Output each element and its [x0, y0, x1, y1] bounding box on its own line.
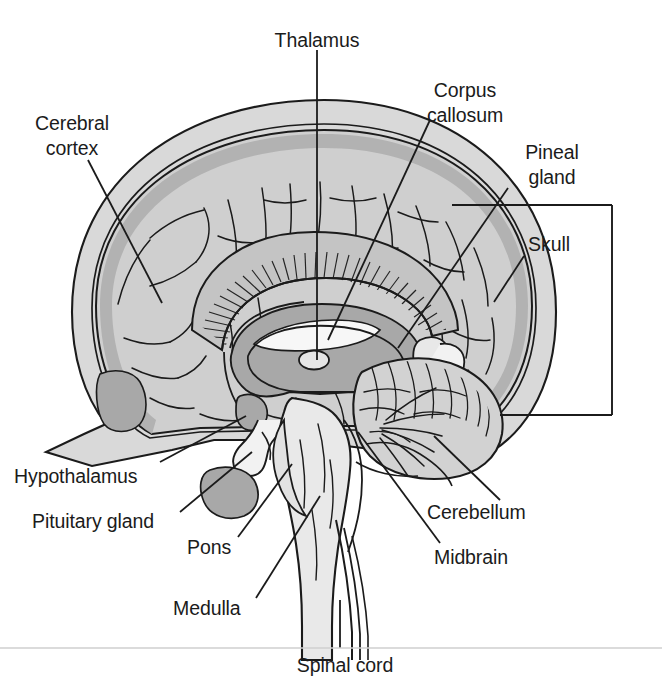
label-pineal-gland-line1: Pineal [525, 140, 579, 165]
label-corpus-callosum-line1: Corpus [427, 78, 503, 103]
label-pons: Pons [187, 535, 231, 560]
label-thalamus: Thalamus [275, 28, 360, 53]
label-corpus-callosum: Corpus callosum [427, 78, 503, 128]
label-spinal-cord: Spinal cord [297, 653, 393, 678]
label-skull: Skull [528, 232, 570, 257]
temporal-deep-gray [97, 371, 146, 432]
label-cerebral-cortex: Cerebral cortex [35, 111, 109, 161]
interthalamic-adhesion [299, 351, 329, 370]
label-cerebral-cortex-line1: Cerebral [35, 111, 109, 136]
label-cerebellum: Cerebellum [427, 500, 526, 525]
label-medulla: Medulla [173, 596, 241, 621]
label-pineal-gland: Pineal gland [525, 140, 579, 190]
label-corpus-callosum-line2: callosum [427, 103, 503, 128]
label-pituitary-gland: Pituitary gland [32, 509, 154, 534]
label-midbrain: Midbrain [434, 545, 508, 570]
brain-diagram-svg [0, 0, 662, 691]
brain-anatomy-figure: Cerebral cortex Thalamus Corpus callosum… [0, 0, 662, 691]
label-hypothalamus: Hypothalamus [14, 464, 137, 489]
label-pineal-gland-line2: gland [525, 165, 579, 190]
label-cerebral-cortex-line2: cortex [35, 136, 109, 161]
